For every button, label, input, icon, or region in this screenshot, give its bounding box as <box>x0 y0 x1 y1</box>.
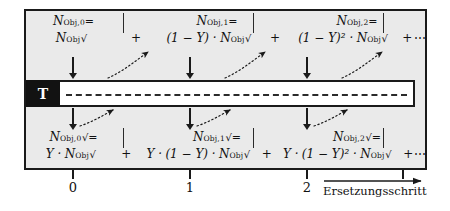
top-term-0-sub: Obj <box>66 35 80 44</box>
axis-tick-label-0: 0 <box>61 180 85 195</box>
bottom-term-2-sub: Obj <box>371 151 385 160</box>
top-heading-0-base: N <box>53 14 64 28</box>
top-term-2-check: √ <box>381 33 388 44</box>
top-term-0-check: √ <box>80 33 87 44</box>
bottom-term-2-coef: Y · <box>283 147 299 161</box>
timeline-t-label: T <box>26 80 60 107</box>
top-operator-2: + <box>265 31 286 45</box>
down-arrow-out-step-2 <box>302 108 311 130</box>
top-term-0: NObj√ <box>24 31 119 45</box>
bottom-term-0-coef: Y · <box>46 147 62 161</box>
bottom-heading-0-sub: Obj,0 <box>60 134 81 143</box>
bottom-term-0-sub: Obj <box>75 151 89 160</box>
down-arrow-step-2 <box>302 57 311 79</box>
top-heading-2-sub: Obj,2 <box>347 18 368 27</box>
top-heading-row: NObj,0= NObj,1= NObj,2= <box>24 14 427 29</box>
bottom-term-1-check: √ <box>243 149 250 160</box>
bottom-heading-1-base: N <box>193 130 204 144</box>
top-heading-1: NObj,1= <box>159 14 275 28</box>
top-term-1-sub: Obj <box>231 35 245 44</box>
top-term-2-sub: Obj <box>367 35 381 44</box>
axis-tick-1 <box>189 170 191 179</box>
bottom-term-1-coef: Y · <box>146 147 162 161</box>
top-term-2: (1 − Y)² · NObj√ <box>286 31 401 45</box>
axis-name-label: Ersetzungsschritt <box>323 184 427 198</box>
axis-tick-label-2: 2 <box>295 180 319 195</box>
top-heading-2-rel: = <box>368 15 377 28</box>
top-heading-1-rel: = <box>228 15 237 28</box>
bottom-operator-1: + <box>118 147 135 161</box>
bottom-operator-2: + <box>262 147 272 161</box>
top-term-1-check: √ <box>245 33 252 44</box>
top-heading-0: NObj,0= <box>24 14 123 28</box>
bottom-heading-2-base: N <box>333 130 344 144</box>
down-arrow-out-step-1 <box>185 108 194 130</box>
top-term-row: NObj√ + (1 − Y) · NObj√ + (1 − Y)² · NOb… <box>24 31 427 48</box>
bottom-heading-0-base: N <box>49 130 60 144</box>
bottom-heading-1-check: √ <box>225 132 232 143</box>
down-arrow-step-0 <box>68 57 77 79</box>
axis-tick-2 <box>306 170 308 179</box>
down-arrow-step-1 <box>185 57 194 79</box>
top-term-2-factor: (1 − Y)² · <box>298 31 353 45</box>
top-heading-0-rel: = <box>85 15 94 28</box>
bottom-operator-3: + <box>403 147 414 161</box>
bottom-heading-0-rel: = <box>88 131 97 144</box>
bottom-heading-1-sub: Obj,1 <box>203 134 224 143</box>
top-term-1-base: N <box>220 31 231 45</box>
top-heading-0-sub: Obj,0 <box>63 18 84 27</box>
bottom-heading-2-sub: Obj,2 <box>343 134 364 143</box>
axis-tick-label-1: 1 <box>178 180 202 195</box>
figure-container: NObj,0= NObj,1= NObj,2= NObj√ + (1 − Y) … <box>0 0 450 211</box>
bottom-tail-ellipsis: ⋯ <box>414 147 427 161</box>
timeline-dashed-line <box>66 94 407 96</box>
axis-tick-3 <box>402 170 404 179</box>
bottom-term-0-check: √ <box>89 149 96 160</box>
bottom-term-1-base: N <box>219 147 230 161</box>
bottom-heading-2-rel: = <box>372 131 381 144</box>
bottom-term-1-sub: Obj <box>229 151 243 160</box>
down-arrow-out-step-0 <box>68 108 77 130</box>
timeline-bar: T <box>26 80 415 107</box>
top-operator-1: + <box>119 31 154 45</box>
top-heading-1-base: N <box>196 14 207 28</box>
top-term-1: (1 − Y) · NObj√ <box>153 31 264 45</box>
top-term-0-base: N <box>56 31 67 45</box>
top-operator-3: + <box>401 31 414 45</box>
bottom-term-1-factor: (1 − Y) · <box>165 147 215 161</box>
bottom-term-2-factor: (1 − Y)² · <box>302 147 357 161</box>
bottom-term-2: Y · (1 − Y)² · NObj√ <box>272 147 403 161</box>
top-heading-2: NObj,2= <box>297 14 417 28</box>
bottom-heading-0: NObj,0√= <box>24 130 123 144</box>
bottom-term-0: Y · NObj√ <box>24 147 118 161</box>
axis-tick-0 <box>72 170 74 179</box>
bottom-heading-1: NObj,1√= <box>159 130 275 144</box>
bottom-heading-row: NObj,0√= NObj,1√= NObj,2√= <box>24 130 427 145</box>
bottom-term-2-base: N <box>360 147 371 161</box>
bottom-term-0-base: N <box>65 147 76 161</box>
top-term-1-factor: (1 − Y) · <box>166 31 216 45</box>
top-term-2-base: N <box>357 31 368 45</box>
bottom-heading-2-check: √ <box>365 132 372 143</box>
bottom-heading-0-check: √ <box>81 132 88 143</box>
bottom-heading-1-rel: = <box>232 131 241 144</box>
bottom-term-1: Y · (1 − Y) · NObj√ <box>135 147 262 161</box>
bottom-term-row: Y · NObj√ + Y · (1 − Y) · NObj√ + Y · (1… <box>24 147 427 164</box>
top-heading-2-base: N <box>336 14 347 28</box>
top-tail-ellipsis: ⋯ <box>414 31 427 45</box>
top-heading-1-sub: Obj,1 <box>207 18 228 27</box>
bottom-heading-2: NObj,2√= <box>297 130 417 144</box>
bottom-term-2-check: √ <box>385 149 392 160</box>
